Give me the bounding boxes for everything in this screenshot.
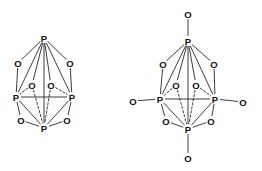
atom-label-p4o10-p-left: P xyxy=(157,94,164,105)
bond-p-top-to-o-mid-left xyxy=(33,43,42,80)
atom-label-p4o10-o-upper-right: O xyxy=(210,59,217,70)
bond-p-left-to-o-lower-left xyxy=(161,104,164,116)
atom-label-p4o10-o-upper-left: O xyxy=(159,59,166,70)
bond-o-mid-right-to-p-bottom xyxy=(189,90,195,123)
bond-o-mid-right-to-p-right xyxy=(200,88,210,96)
diagram-canvas: PPPPOOOOOOPPPPOOOOOOOOOO xyxy=(0,0,262,171)
bond-p-top-to-o-upper-right xyxy=(48,42,66,60)
atom-label-p4o10-o-term-top: O xyxy=(184,9,191,20)
atom-label-p4o10-o-mid-left: O xyxy=(172,80,179,91)
atom-label-p4o6-p-top: P xyxy=(41,33,48,44)
bond-p-right-to-o-lower-right xyxy=(68,102,71,114)
bond-o-upper-left-to-p-left xyxy=(16,68,17,91)
atom-label-p4o10-p-top: P xyxy=(185,36,192,47)
bond-p-top-to-o-upper-left xyxy=(22,42,40,60)
bond-o-upper-right-to-p-right xyxy=(214,69,215,93)
bond-o-term-left-to-p-left xyxy=(138,99,154,100)
bond-o-upper-left-to-p-left xyxy=(160,69,162,93)
bond-o-lower-right-to-p-bottom xyxy=(193,123,206,127)
atom-label-p4o10-o-lower-right: O xyxy=(207,116,214,127)
bond-o-lower-left-to-p-bottom xyxy=(171,123,183,127)
atom-label-p4o6-p-right: P xyxy=(69,92,76,103)
bond-o-mid-right-to-p-right xyxy=(56,88,68,95)
bond-o-upper-right-to-p-right xyxy=(70,68,71,91)
molecular-structure-diagram: PPPPOOOOOOPPPPOOOOOOOOOO xyxy=(0,0,262,171)
bond-p-top-to-o-mid-right xyxy=(189,46,195,79)
bond-o-term-right-to-p-right xyxy=(220,100,237,102)
atom-label-p4o6-o-upper-right: O xyxy=(66,58,73,69)
atom-label-p4o10-p-bottom: P xyxy=(185,124,192,135)
bond-o-lower-left-to-p-bottom xyxy=(26,122,39,126)
bond-o-mid-left-to-p-left xyxy=(20,88,27,94)
atom-label-p4o6-o-mid-left: O xyxy=(28,80,35,91)
bond-p-left-to-o-lower-left xyxy=(17,102,20,114)
bond-p-top-to-o-mid-left xyxy=(177,46,186,80)
atom-label-p4o6-p-bottom: P xyxy=(41,123,48,134)
atom-label-p4o10-o-term-left: O xyxy=(129,96,136,107)
atom-label-p4o10-o-term-bottom: O xyxy=(184,153,191,164)
bond-o-lower-right-to-p-bottom xyxy=(49,122,62,126)
bond-p-top-to-o-upper-left xyxy=(167,45,184,61)
bond-p-right-to-o-lower-right xyxy=(212,104,214,115)
bond-p-top-to-o-upper-right xyxy=(192,45,210,61)
atoms-layer: PPPPOOOOOOPPPPOOOOOOOOOO xyxy=(11,9,247,164)
atom-label-p4o6-o-lower-left: O xyxy=(17,115,24,126)
atom-label-p4o6-o-lower-right: O xyxy=(63,115,70,126)
atom-label-p4o6-o-upper-left: O xyxy=(14,58,21,69)
bond-group-p4o6 xyxy=(16,42,71,126)
atom-label-p4o6-p-left: P xyxy=(13,92,20,103)
atom-label-p4o10-p-right: P xyxy=(212,94,219,105)
bond-o-mid-left-to-p-left xyxy=(164,89,172,96)
atom-label-p4o10-o-mid-right: O xyxy=(192,80,199,91)
atom-label-p4o10-o-lower-left: O xyxy=(162,116,169,127)
atom-label-p4o10-o-term-right: O xyxy=(239,97,246,108)
atom-label-p4o6-o-mid-right: O xyxy=(47,80,54,91)
bond-o-mid-right-to-p-bottom xyxy=(45,90,50,122)
